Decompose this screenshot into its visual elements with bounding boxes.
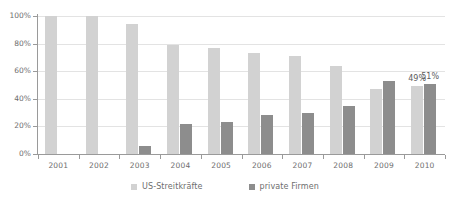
x-axis-tick (242, 155, 243, 159)
legend-item[interactable]: private Firmen (249, 182, 319, 191)
legend-label: US-Streitkräfte (142, 182, 203, 191)
gridline (38, 16, 445, 17)
bar-2010-private-firmen (424, 84, 436, 154)
y-axis-tick-label: 60% (0, 66, 31, 75)
x-axis-label-2005: 2005 (201, 161, 242, 170)
bar-2004-us-streitkraefte (167, 45, 179, 154)
x-axis-label-2003: 2003 (119, 161, 160, 170)
x-axis-label-2009: 2009 (364, 161, 405, 170)
bar-2008-us-streitkraefte (330, 66, 342, 154)
bar-2007-private-firmen (302, 113, 314, 154)
bar-2007-us-streitkraefte (289, 56, 301, 154)
bar-2010-us-streitkraefte (411, 86, 423, 154)
x-axis-tick (79, 155, 80, 159)
legend-swatch-private-firmen (249, 184, 255, 190)
bar-2003-private-firmen (139, 146, 151, 154)
x-axis-tick (119, 155, 120, 159)
y-axis-tick-label: 80% (0, 39, 31, 48)
x-axis-tick (282, 155, 283, 159)
x-axis-tick (364, 155, 365, 159)
bar-2005-us-streitkraefte (208, 48, 220, 154)
legend-item[interactable]: US-Streitkräfte (131, 182, 203, 191)
chart-legend: US-Streitkräfteprivate Firmen (0, 182, 450, 191)
x-axis-tick (323, 155, 324, 159)
x-axis-label-2007: 2007 (282, 161, 323, 170)
x-axis-label-2001: 2001 (38, 161, 79, 170)
bar-2006-private-firmen (261, 115, 273, 154)
legend-swatch-us-streitkraefte (131, 184, 137, 190)
bar-2002-us-streitkraefte (86, 16, 98, 154)
bar-2004-private-firmen (180, 124, 192, 154)
y-axis-tick-label: 100% (0, 11, 31, 20)
bar-2005-private-firmen (221, 122, 233, 154)
bar-2003-us-streitkraefte (126, 24, 138, 154)
x-axis-tick (201, 155, 202, 159)
y-axis-tick-label: 0% (0, 149, 31, 158)
y-axis-tick-label: 20% (0, 121, 31, 130)
gridline (38, 71, 445, 72)
x-axis-tick (445, 155, 446, 159)
x-axis-tick (404, 155, 405, 159)
bar-chart: 0%20%40%60%80%100% 49%51% 20012002200320… (0, 0, 450, 205)
x-axis-tick (38, 155, 39, 159)
x-axis-label-2008: 2008 (323, 161, 364, 170)
x-axis-label-2002: 2002 (79, 161, 120, 170)
x-axis-label-2010: 2010 (404, 161, 445, 170)
y-axis-tick-label: 40% (0, 94, 31, 103)
bar-2001-us-streitkraefte (45, 16, 57, 154)
bar-2009-us-streitkraefte (370, 89, 382, 154)
bar-2006-us-streitkraefte (248, 53, 260, 154)
bar-data-label: 51% (421, 72, 439, 81)
gridline (38, 44, 445, 45)
plot-area: 49%51% (38, 16, 445, 154)
bar-2008-private-firmen (343, 106, 355, 154)
bar-2009-private-firmen (383, 81, 395, 154)
legend-label: private Firmen (260, 182, 319, 191)
x-axis-tick (160, 155, 161, 159)
x-axis-label-2006: 2006 (242, 161, 283, 170)
x-axis-label-2004: 2004 (160, 161, 201, 170)
